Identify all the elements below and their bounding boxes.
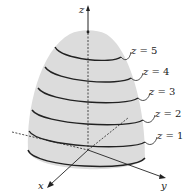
z-axis-arrow-icon — [86, 5, 90, 11]
leader-z1 — [145, 137, 157, 145]
paraboloid-diagram: z y x z = 5 z = 4 z = 3 z = 2 z = 1 — [0, 0, 185, 193]
label-z2: z = 2 — [154, 108, 181, 119]
x-axis-label: x — [38, 180, 44, 191]
label-z1: z = 1 — [156, 130, 183, 141]
y-axis-label: y — [160, 180, 167, 191]
y-axis-arrow-icon — [159, 174, 166, 179]
label-z5: z = 5 — [130, 45, 157, 56]
label-z4: z = 4 — [142, 66, 169, 77]
paraboloid-surface — [28, 30, 145, 169]
surface-apex-dot — [87, 31, 90, 34]
leader-z2 — [143, 115, 155, 123]
label-z3: z = 3 — [148, 86, 175, 97]
z-axis-label: z — [78, 4, 85, 15]
